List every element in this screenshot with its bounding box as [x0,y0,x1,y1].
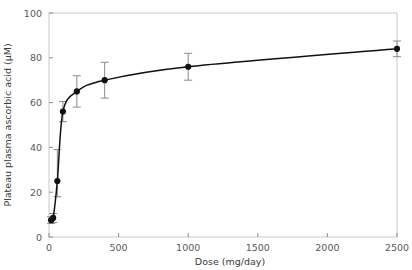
data-point-marker [394,46,400,52]
plot-area: 05001000150020002500 020406080100 Dose (… [0,0,412,270]
data-markers [48,46,400,224]
y-tick-label: 40 [30,142,42,153]
x-tick-label: 1000 [176,242,200,253]
x-axis-ticks [49,233,397,237]
x-tick-label: 500 [110,242,128,253]
x-tick-label: 2000 [315,242,339,253]
y-tick-label: 100 [24,8,42,19]
y-axis-ticks [49,13,53,237]
data-point-marker [50,215,56,221]
y-axis-tick-labels: 020406080100 [24,8,42,243]
data-point-marker [60,108,66,114]
y-tick-label: 80 [30,52,42,63]
chart-figure: 05001000150020002500 020406080100 Dose (… [0,0,412,270]
data-point-marker [102,77,108,83]
data-point-marker [185,64,191,70]
x-tick-label: 0 [46,242,52,253]
x-axis-tick-labels: 05001000150020002500 [46,242,409,253]
plot-frame [49,13,397,237]
y-tick-label: 20 [30,187,42,198]
y-tick-label: 60 [30,97,42,108]
x-tick-label: 2500 [385,242,409,253]
data-curve [51,49,397,222]
x-tick-label: 1500 [246,242,270,253]
y-tick-label: 0 [36,232,42,243]
error-bars [47,41,401,224]
y-axis-title: Plateau plasma ascorbic acid (µM) [2,43,13,206]
x-axis-title: Dose (mg/day) [195,256,265,267]
data-point-marker [74,88,80,94]
data-point-marker [54,178,60,184]
